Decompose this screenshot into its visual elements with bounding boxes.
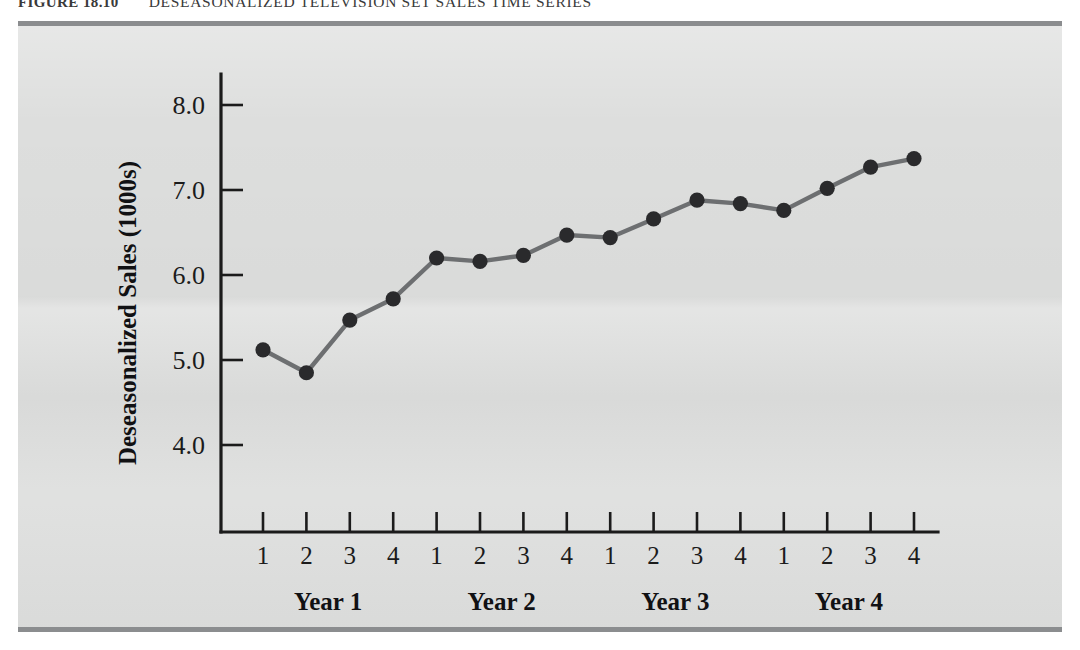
data-point-marker	[472, 254, 487, 269]
x-tick-label: 3	[864, 542, 877, 569]
y-tick-label: 5.0	[173, 346, 206, 375]
bottom-rule	[18, 627, 1062, 632]
x-tick-label: 3	[517, 542, 530, 569]
data-point-marker	[863, 159, 878, 174]
x-group-label: Year 1	[294, 588, 362, 615]
x-tick-label: 1	[257, 542, 270, 569]
line-chart: 4.05.06.07.08.01234123412341234Year 1Yea…	[18, 26, 1062, 627]
y-tick-label: 6.0	[173, 261, 206, 290]
chart-panel: 4.05.06.07.08.01234123412341234Year 1Yea…	[18, 26, 1062, 627]
data-point-marker	[646, 211, 661, 226]
x-tick-label: 1	[778, 542, 791, 569]
data-point-marker	[255, 342, 270, 357]
figure-title: DESEASONALIZED TELEVISION SET SALES TIME…	[149, 0, 592, 10]
figure-label: FIGURE 18.10	[18, 0, 119, 10]
y-tick-label: 4.0	[173, 431, 206, 460]
x-tick-label: 4	[734, 542, 747, 569]
series-line	[263, 159, 914, 373]
y-axis-title: Deseasonalized Sales (1000s)	[114, 161, 142, 465]
x-tick-label: 3	[344, 542, 357, 569]
x-tick-label: 4	[387, 542, 400, 569]
data-point-marker	[559, 227, 574, 242]
x-tick-label: 3	[691, 542, 704, 569]
y-tick-label: 7.0	[173, 176, 206, 205]
figure-container: FIGURE 18.10 DESEASONALIZED TELEVISION S…	[0, 0, 1080, 650]
x-tick-label: 1	[430, 542, 443, 569]
x-tick-label: 1	[604, 542, 617, 569]
x-tick-label: 2	[300, 542, 313, 569]
y-tick-label: 8.0	[173, 91, 206, 120]
data-point-marker	[733, 196, 748, 211]
x-group-label: Year 4	[815, 588, 884, 615]
x-tick-label: 4	[908, 542, 921, 569]
data-point-marker	[386, 291, 401, 306]
x-tick-label: 4	[561, 542, 574, 569]
x-group-label: Year 3	[641, 588, 709, 615]
data-point-marker	[429, 250, 444, 265]
x-tick-label: 2	[821, 542, 834, 569]
figure-caption: FIGURE 18.10 DESEASONALIZED TELEVISION S…	[18, 0, 1062, 13]
x-tick-label: 2	[474, 542, 487, 569]
data-point-marker	[906, 151, 921, 166]
data-point-marker	[299, 365, 314, 380]
data-point-marker	[342, 312, 357, 327]
x-tick-label: 2	[647, 542, 660, 569]
x-group-label: Year 2	[468, 588, 536, 615]
data-point-marker	[603, 230, 618, 245]
data-point-marker	[776, 203, 791, 218]
data-point-marker	[516, 248, 531, 263]
data-point-marker	[689, 193, 704, 208]
data-point-marker	[820, 181, 835, 196]
